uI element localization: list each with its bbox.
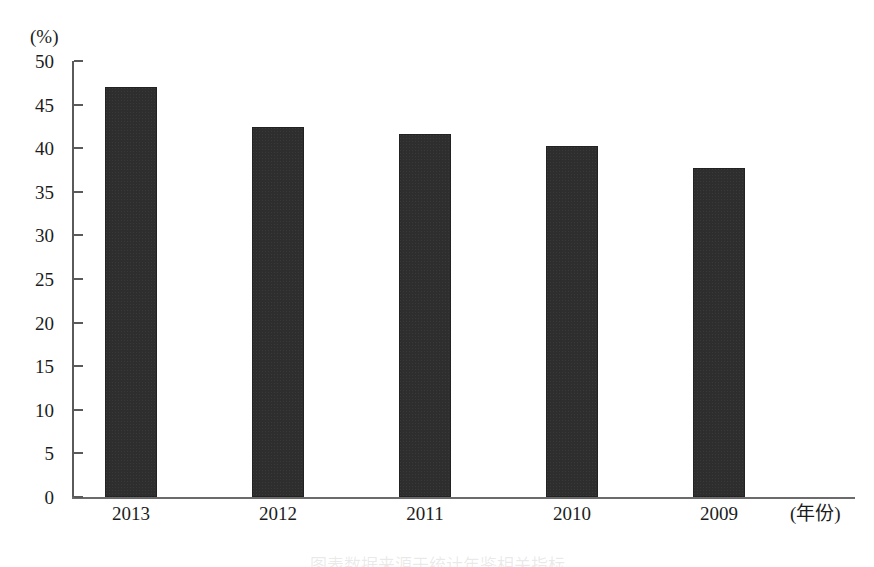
y-axis-tick-label: 5 [45, 444, 55, 463]
y-axis-tick-mark [74, 60, 83, 62]
bar [105, 87, 157, 497]
y-axis-tick-label: 35 [35, 182, 54, 201]
y-axis-tick-label: 0 [45, 488, 55, 507]
bar [399, 134, 451, 497]
x-axis-tick-labels: 20132012201120102009 [72, 503, 855, 533]
y-axis-tick-label: 30 [35, 226, 54, 245]
y-axis-tick-label: 50 [35, 52, 54, 71]
y-axis-unit-label: (%) [30, 27, 58, 46]
x-axis-tick-label: 2010 [553, 503, 591, 526]
x-axis-tick-label: 2011 [406, 503, 443, 526]
bar [546, 146, 598, 497]
figure-caption: 图表数据来源于统计年鉴相关指标 [0, 556, 874, 567]
y-axis-tick-mark [74, 104, 83, 106]
bar [252, 127, 304, 497]
y-axis-tick-mark [74, 409, 83, 411]
y-axis-tick-label: 15 [35, 357, 54, 376]
y-axis-tick-mark [74, 322, 83, 324]
y-axis-tick-label: 25 [35, 270, 54, 289]
y-axis-tick-labels: 50454035302520151050 [0, 61, 62, 497]
plot-area [72, 61, 855, 497]
bar-chart-figure: (%) 50454035302520151050 201320122011201… [0, 0, 874, 567]
y-axis-tick-mark [74, 278, 83, 280]
bar [693, 168, 745, 497]
y-axis-tick-label: 40 [35, 139, 54, 158]
x-axis-tick-label: 2012 [259, 503, 297, 526]
y-axis-tick-mark [74, 234, 83, 236]
x-axis-line [72, 497, 855, 499]
x-axis-unit-label: (年份) [790, 503, 841, 526]
y-axis-tick-mark [74, 147, 83, 149]
x-axis-tick-label: 2013 [112, 503, 150, 526]
y-axis-tick-mark [74, 496, 83, 498]
y-axis-tick-label: 45 [35, 95, 54, 114]
y-axis-tick-mark [74, 452, 83, 454]
x-axis-tick-label: 2009 [700, 503, 738, 526]
y-axis-tick-label: 10 [35, 400, 54, 419]
y-axis-tick-mark [74, 191, 83, 193]
y-axis-tick-mark [74, 365, 83, 367]
y-axis-tick-label: 20 [35, 313, 54, 332]
